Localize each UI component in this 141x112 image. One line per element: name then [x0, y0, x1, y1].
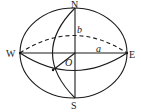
point-e	[126, 52, 128, 54]
ellipsoid-figure: N S W E O b a	[0, 0, 141, 112]
label-east: E	[129, 49, 135, 60]
point-w	[19, 52, 21, 54]
equator-front	[20, 53, 127, 71]
equator-back	[20, 36, 127, 54]
label-west: W	[6, 48, 16, 59]
label-north: N	[71, 0, 78, 10]
label-b: b	[77, 24, 82, 35]
point-intersection	[52, 69, 54, 71]
label-center: O	[65, 57, 72, 68]
label-a: a	[96, 43, 101, 54]
label-south: S	[71, 100, 77, 111]
